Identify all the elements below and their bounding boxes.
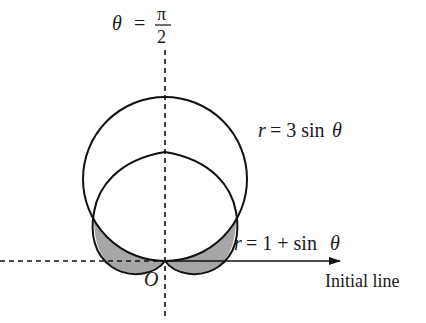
cardioid-label-r: r <box>234 232 242 254</box>
polar-diagram: θ = π 2 r = 3 sin θ r = 1 + sin θ O Init… <box>0 0 426 323</box>
circle-label-theta: θ <box>332 119 342 141</box>
circle-label-rhs: = 3 sin <box>270 119 325 141</box>
cardioid-label: r = 1 + sin θ <box>234 232 340 254</box>
origin-label: O <box>144 268 158 290</box>
initial-line-label: Initial line <box>325 271 399 291</box>
cardioid-label-rhs: = 1 + sin <box>246 232 317 254</box>
denominator: 2 <box>157 27 166 47</box>
cardioid-label-theta: θ <box>330 232 340 254</box>
pi-numerator: π <box>157 4 166 24</box>
circle-label: r = 3 sin θ <box>258 119 342 141</box>
shaded-region <box>94 220 236 273</box>
equals-sign: = <box>134 12 145 34</box>
theta-symbol: θ <box>112 12 122 34</box>
circle-label-r: r <box>258 119 266 141</box>
vertical-axis-label: θ = π 2 <box>112 4 171 47</box>
